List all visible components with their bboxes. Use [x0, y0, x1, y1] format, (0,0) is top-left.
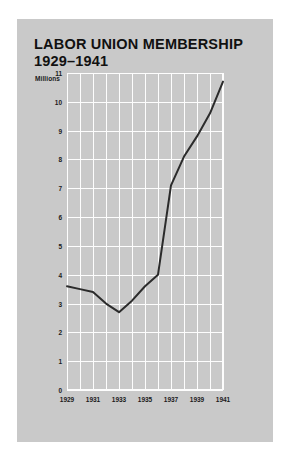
y-axis-tick-label: 3: [58, 300, 62, 307]
gridline-vertical: [223, 73, 224, 390]
y-axis-tick-label: 8: [58, 156, 62, 163]
membership-line-series: [67, 73, 223, 390]
y-axis-tick-label: 6: [58, 214, 62, 221]
x-axis-tick-label: 1939: [190, 396, 204, 403]
y-axis-tick-label: 5: [58, 242, 62, 249]
x-axis-tick-label: 1931: [86, 396, 100, 403]
chart-card: LABOR UNION MEMBERSHIP 1929–1941 Million…: [17, 19, 273, 442]
y-axis-tick-label: 11: [55, 70, 62, 77]
y-axis-tick-label: 9: [58, 127, 62, 134]
y-axis-tick-label: 0: [58, 387, 62, 394]
gridline-horizontal: [67, 390, 223, 391]
chart-title: LABOR UNION MEMBERSHIP 1929–1941: [34, 36, 259, 70]
plot-area: 01234567891011 1929193119331935193719391…: [67, 73, 223, 390]
y-axis-tick-label: 7: [58, 185, 62, 192]
x-axis-tick-label: 1937: [164, 396, 178, 403]
y-axis-tick-label: 10: [55, 98, 62, 105]
y-axis-tick-label: 2: [58, 329, 62, 336]
chart-title-line-1: LABOR UNION MEMBERSHIP: [34, 36, 259, 53]
x-axis-tick-label: 1929: [60, 396, 74, 403]
x-axis-tick-label: 1941: [216, 396, 230, 403]
y-axis-tick-label: 1: [58, 358, 62, 365]
chart-title-line-2: 1929–1941: [34, 53, 259, 70]
x-axis-tick-label: 1935: [138, 396, 152, 403]
x-axis-tick-label: 1933: [112, 396, 126, 403]
y-axis-tick-label: 4: [58, 271, 62, 278]
